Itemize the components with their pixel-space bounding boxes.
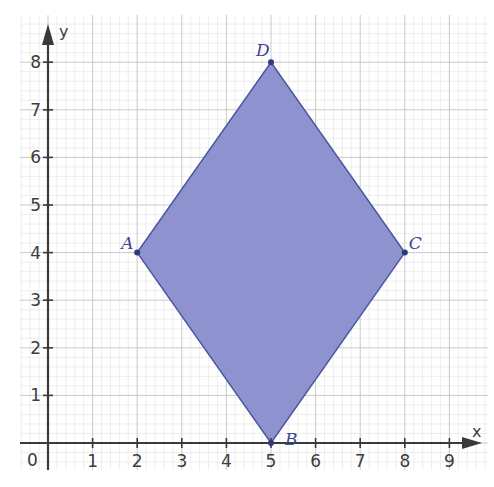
- y-tick-label: 4: [30, 243, 41, 263]
- y-tick-label: 7: [30, 100, 41, 120]
- vertex-a-dot: [134, 250, 140, 256]
- x-tick-label: 5: [266, 451, 277, 471]
- vertex-d-label: D: [255, 40, 270, 60]
- y-axis-ticks: 12345678: [30, 52, 53, 405]
- y-tick-label: 3: [30, 290, 41, 310]
- vertex-a-label: A: [119, 233, 133, 253]
- vertex-c-label: C: [409, 233, 422, 253]
- y-axis-label: y: [59, 22, 68, 41]
- y-tick-label: 6: [30, 147, 41, 167]
- coordinate-plane-chart: x y 0 123456789 12345678 ABCD: [0, 0, 494, 487]
- x-tick-label: 3: [176, 451, 187, 471]
- vertex-c-dot: [402, 250, 408, 256]
- y-tick-label: 1: [30, 385, 41, 405]
- y-tick-label: 8: [30, 52, 41, 72]
- y-tick-label: 5: [30, 195, 41, 215]
- y-tick-label: 2: [30, 338, 41, 358]
- x-tick-label: 2: [132, 451, 143, 471]
- x-tick-label: 1: [87, 451, 98, 471]
- origin-label: 0: [27, 450, 38, 470]
- vertex-b-dot: [268, 440, 274, 446]
- x-axis-label: x: [472, 422, 481, 441]
- y-axis-arrow-icon: [42, 24, 54, 45]
- x-tick-label: 9: [444, 451, 455, 471]
- vertex-b-label: B: [284, 429, 298, 449]
- x-tick-label: 8: [399, 451, 410, 471]
- x-tick-label: 4: [221, 451, 232, 471]
- x-tick-label: 7: [355, 451, 366, 471]
- x-tick-label: 6: [310, 451, 321, 471]
